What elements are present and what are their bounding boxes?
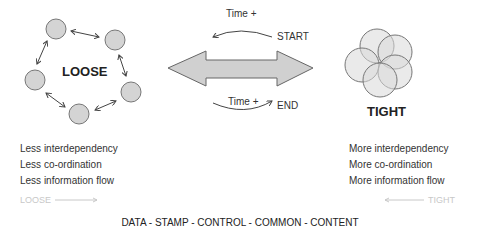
tight-nodes: [345, 29, 412, 97]
bottom-time-label: Time +: [228, 96, 258, 107]
double-arrow-icon: [168, 51, 313, 86]
coupling-types-footer: DATA - STAMP - CONTROL - COMMON - CONTEN…: [120, 217, 360, 228]
loose-item: Less information flow: [20, 173, 118, 189]
loose-properties: Less interdependency Less co-ordination …: [20, 141, 118, 189]
tight-item: More co-ordination: [349, 157, 449, 173]
top-time-label: Time +: [226, 8, 256, 19]
tight-item: More information flow: [349, 173, 449, 189]
tight-item: More interdependency: [349, 141, 449, 157]
start-label: START: [277, 31, 309, 42]
tight-direction-label: TIGHT: [428, 195, 455, 205]
loose-item: Less interdependency: [20, 141, 118, 157]
diagram-graphics: [0, 0, 480, 243]
start-curve-arrow: [213, 31, 272, 37]
loose-direction-label: LOOSE: [20, 195, 51, 205]
loose-title: LOOSE: [62, 64, 108, 79]
tight-title: TIGHT: [367, 104, 406, 119]
end-label: END: [277, 100, 298, 111]
loose-item: Less co-ordination: [20, 157, 118, 173]
tight-properties: More interdependency More co-ordination …: [349, 141, 449, 189]
